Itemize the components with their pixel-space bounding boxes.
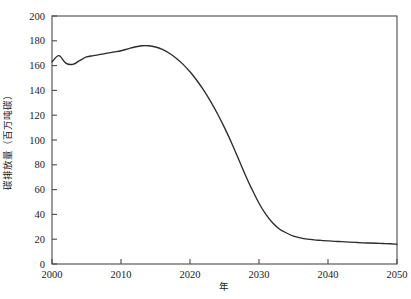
y-tick-label-180: 180 [29,35,45,46]
y-axis-tick-labels: 020406080100120140160180200 [29,11,45,270]
x-axis-tick-labels: 200020102020203020402050 [42,269,408,280]
x-tick-label-2030: 2030 [249,269,270,280]
chart-container: 020406080100120140160180200 200020102020… [0,0,411,299]
emissions-line-chart: 020406080100120140160180200 200020102020… [0,0,411,299]
x-axis-ticks [52,259,397,264]
svg-text:碳排放量（百万吨碳）: 碳排放量（百万吨碳） [2,90,13,190]
x-axis-title: 年 [219,281,229,292]
x-tick-label-2000: 2000 [42,269,63,280]
x-tick-label-2010: 2010 [111,269,132,280]
x-tick-label-2050: 2050 [387,269,408,280]
series-line-carbon-emissions [52,46,397,245]
y-tick-label-80: 80 [35,159,46,170]
y-tick-label-100: 100 [29,135,45,146]
y-tick-label-20: 20 [35,234,46,245]
y-tick-label-200: 200 [29,11,45,22]
y-tick-label-120: 120 [29,110,45,121]
y-tick-label-60: 60 [35,184,46,195]
y-tick-label-140: 140 [29,85,45,96]
y-tick-label-0: 0 [40,259,45,270]
x-tick-label-2020: 2020 [180,269,201,280]
y-axis-title: 碳排放量（百万吨碳） [2,90,13,190]
y-axis-ticks [52,16,57,264]
y-tick-label-40: 40 [35,209,46,220]
y-tick-label-160: 160 [29,60,45,71]
x-tick-label-2040: 2040 [318,269,339,280]
